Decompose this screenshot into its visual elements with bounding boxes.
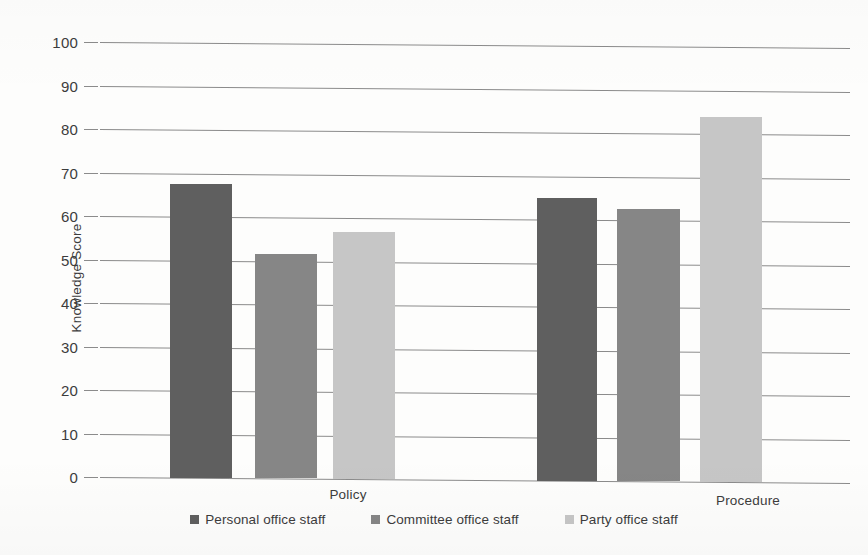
y-axis-tick-mark: [84, 303, 98, 304]
y-axis-tick-mark: [84, 42, 98, 43]
bar[interactable]: [700, 117, 762, 482]
y-axis-tick-label: 100: [20, 35, 78, 50]
legend-swatch-icon: [565, 515, 574, 524]
legend-item[interactable]: Committee office staff: [371, 512, 518, 527]
y-axis-tick-label: 90: [20, 79, 78, 94]
y-axis-tick-label: 60: [20, 209, 78, 224]
y-axis-tick-mark: [84, 434, 98, 435]
legend-swatch-icon: [371, 515, 380, 524]
x-axis-category-label: Procedure: [678, 493, 818, 508]
bar-chart: Knowledge Score 1009080706050403020100 P…: [0, 0, 868, 555]
gridline: [100, 42, 850, 49]
y-axis-tick-mark: [84, 390, 98, 391]
y-axis-tick-mark: [84, 347, 98, 348]
legend-label: Committee office staff: [386, 512, 518, 527]
legend-label: Personal office staff: [205, 512, 325, 527]
plot-area: [100, 42, 850, 477]
gridline: [100, 86, 850, 93]
y-axis-tick-label: 30: [20, 340, 78, 355]
y-axis-tick-mark: [84, 477, 98, 478]
bar[interactable]: [333, 232, 395, 479]
y-axis-tick-label: 50: [20, 253, 78, 268]
y-axis-tick-label: 80: [20, 122, 78, 137]
legend-item[interactable]: Party office staff: [565, 512, 678, 527]
bar[interactable]: [537, 198, 597, 481]
y-axis-tick-mark: [84, 260, 98, 261]
y-axis-tick-mark: [84, 86, 98, 87]
y-axis-tick-label: 20: [20, 383, 78, 398]
bar[interactable]: [255, 254, 317, 478]
y-axis-tick-label: 70: [20, 166, 78, 181]
y-axis-tick-mark: [84, 173, 98, 174]
y-axis-tick-label: 0: [20, 470, 78, 485]
y-axis-tick-mark: [84, 216, 98, 217]
legend-item[interactable]: Personal office staff: [190, 512, 325, 527]
legend-label: Party office staff: [580, 512, 678, 527]
y-axis-title: Knowledge Score: [69, 223, 84, 332]
x-axis-category-label: Policy: [278, 487, 418, 502]
y-axis-tick-label: 40: [20, 296, 78, 311]
legend-swatch-icon: [190, 515, 199, 524]
chart-legend: Personal office staffCommittee office st…: [0, 512, 868, 527]
bar[interactable]: [617, 209, 680, 481]
y-axis-tick-label: 10: [20, 427, 78, 442]
bar[interactable]: [170, 184, 232, 478]
y-axis-tick-mark: [84, 129, 98, 130]
